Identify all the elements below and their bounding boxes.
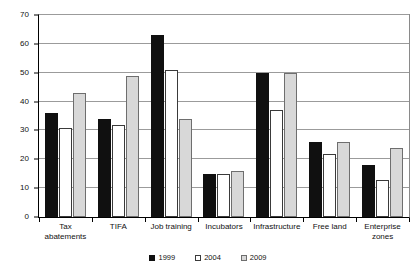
y-tick-label: 10 — [20, 184, 29, 192]
bar-2004 — [217, 174, 230, 217]
bar-1999 — [151, 35, 164, 217]
y-tick-label: 40 — [20, 98, 29, 106]
bar-2009 — [73, 93, 86, 217]
bar-1999 — [45, 113, 58, 217]
y-tick-label: 60 — [20, 40, 29, 48]
bar-group — [92, 15, 145, 217]
y-axis: 010203040506070 — [0, 14, 34, 218]
bar-group — [145, 15, 198, 217]
bar-2004 — [165, 70, 178, 217]
bar-group — [250, 15, 303, 217]
legend-label: 1999 — [158, 254, 175, 262]
legend-item: 1999 — [149, 254, 175, 262]
legend-swatch-icon — [195, 255, 201, 261]
bar-1999 — [203, 174, 216, 217]
bar-2004 — [376, 180, 389, 218]
bar-group — [303, 15, 356, 217]
chart-legend: 199920042009 — [0, 254, 416, 262]
legend-item: 2004 — [195, 254, 221, 262]
bar-2004 — [270, 110, 283, 217]
x-tick-label: Enterprise zones — [351, 222, 415, 242]
y-tick-label: 70 — [20, 11, 29, 19]
y-tick-label: 50 — [20, 69, 29, 77]
bar-1999 — [362, 165, 375, 217]
legend-swatch-icon — [149, 255, 155, 261]
bar-2009 — [126, 76, 139, 217]
legend-label: 2009 — [250, 254, 267, 262]
bar-group — [198, 15, 251, 217]
bar-2009 — [284, 73, 297, 217]
legend-swatch-icon — [241, 255, 247, 261]
x-axis-labels: Tax abatementsTIFAJob trainingIncubators… — [39, 222, 409, 250]
bar-2004 — [112, 125, 125, 217]
bar-2004 — [323, 154, 336, 217]
bar-1999 — [256, 73, 269, 217]
bar-2009 — [179, 119, 192, 217]
bar-group — [356, 15, 409, 217]
bar-2009 — [337, 142, 350, 217]
bar-1999 — [98, 119, 111, 217]
legend-label: 2004 — [204, 254, 221, 262]
legend-item: 2009 — [241, 254, 267, 262]
y-tick-label: 20 — [20, 155, 29, 163]
bar-chart: 010203040506070 Tax abatementsTIFAJob tr… — [0, 0, 416, 272]
bar-2009 — [390, 148, 403, 217]
bar-1999 — [309, 142, 322, 217]
bar-2009 — [231, 171, 244, 217]
bars-layer — [39, 15, 409, 217]
bar-2004 — [59, 128, 72, 217]
y-tick-label: 0 — [25, 213, 29, 221]
bar-group — [39, 15, 92, 217]
y-tick-label: 30 — [20, 126, 29, 134]
